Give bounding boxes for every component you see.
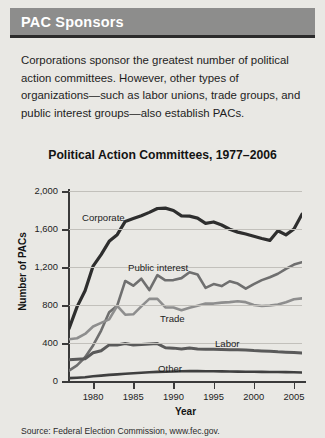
x-axis-tick bbox=[133, 383, 135, 389]
x-axis-tick-label: 2005 bbox=[274, 391, 314, 402]
x-axis-tick bbox=[294, 383, 296, 389]
series-label-public-interest: Public interest bbox=[128, 262, 188, 273]
page-background: PAC Sponsors Corporations sponsor the gr… bbox=[0, 0, 325, 438]
y-axis-tick-label: 2,000 bbox=[35, 185, 58, 196]
x-axis-tick-label: 2000 bbox=[234, 391, 274, 402]
x-axis-tick bbox=[93, 383, 95, 389]
y-axis-tick-label: 1,600 bbox=[35, 223, 58, 234]
y-axis-tick-label: 0 bbox=[53, 375, 58, 386]
y-axis-tick bbox=[62, 305, 68, 307]
header-band: PAC Sponsors bbox=[10, 8, 315, 38]
series-line-other bbox=[69, 371, 302, 378]
chart-title: Political Action Committees, 1977–2006 bbox=[10, 148, 315, 162]
y-axis-tick-label: 400 bbox=[42, 337, 58, 348]
x-axis-tick-label: 1985 bbox=[113, 391, 153, 402]
series-line-labor bbox=[69, 344, 302, 360]
x-axis-tick-label: 1980 bbox=[73, 391, 113, 402]
page-title: PAC Sponsors bbox=[21, 14, 124, 30]
x-axis-tick-label: 1990 bbox=[153, 391, 193, 402]
series-label-corporate: Corporate bbox=[82, 212, 125, 223]
x-axis-tick bbox=[254, 383, 256, 389]
series-label-labor: Labor bbox=[215, 338, 240, 349]
intro-paragraph: Corporations sponsor the greatest number… bbox=[21, 52, 304, 122]
y-axis-tick bbox=[62, 381, 68, 383]
source-note: Source: Federal Election Commission, www… bbox=[21, 426, 220, 436]
series-label-trade: Trade bbox=[160, 313, 185, 324]
x-axis-tick bbox=[173, 383, 175, 389]
x-axis-line bbox=[68, 381, 306, 383]
y-axis-tick-label: 800 bbox=[42, 299, 58, 310]
gridline bbox=[69, 191, 302, 192]
x-axis-title: Year bbox=[69, 406, 302, 417]
y-axis-title: Number of PACs bbox=[17, 222, 28, 322]
content-card: PAC Sponsors Corporations sponsor the gr… bbox=[10, 8, 315, 432]
series-line-public-interest bbox=[69, 262, 302, 370]
series-label-other: Other bbox=[158, 363, 182, 374]
y-axis-tick-label: 1,200 bbox=[35, 261, 58, 272]
chart-canvas: 04008001,2001,6002,000 Number of PACs Ye… bbox=[10, 170, 315, 408]
gridline bbox=[69, 229, 302, 230]
y-axis-tick bbox=[62, 229, 68, 231]
x-axis-tick-label: 1995 bbox=[194, 391, 234, 402]
gridline bbox=[69, 343, 302, 344]
y-axis-tick bbox=[62, 267, 68, 269]
x-axis-tick bbox=[214, 383, 216, 389]
y-axis-tick bbox=[62, 343, 68, 345]
y-axis-tick bbox=[62, 191, 68, 193]
gridline bbox=[69, 305, 302, 306]
